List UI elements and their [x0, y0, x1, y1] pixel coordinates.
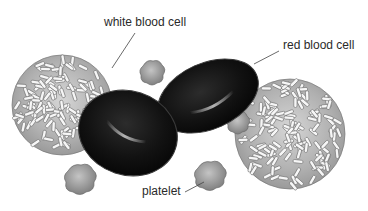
label-white-blood-cell: white blood cell: [104, 15, 186, 29]
blood-cells-diagram: white blood cell red blood cell platelet: [0, 0, 368, 211]
platelet-bottom-left: [64, 164, 96, 194]
diagram-canvas: [0, 0, 368, 211]
label-platelet: platelet: [142, 184, 181, 198]
platelet-bottom-right: [194, 161, 226, 190]
label-red-blood-cell: red blood cell: [283, 38, 354, 52]
leader-line-white-blood-cell: [112, 33, 135, 68]
platelet-top: [140, 61, 165, 86]
leader-line-red-blood-cell: [254, 51, 279, 64]
